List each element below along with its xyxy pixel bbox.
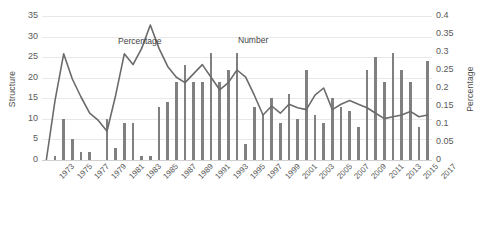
annotation-percentage: Percentage <box>118 36 161 46</box>
x-tick-label: 2001 <box>300 162 319 181</box>
x-tick-label: 1995 <box>248 162 267 181</box>
y-tick-right: 0.25 <box>436 65 466 74</box>
x-tick-label: 1991 <box>214 162 233 181</box>
x-axis-baseline <box>42 160 432 161</box>
y-tick-left: 30 <box>12 32 38 41</box>
y-tick-right: 0.35 <box>436 29 466 38</box>
x-tick-label: 1997 <box>266 162 285 181</box>
y-axis-right-ticks: 00.050.10.150.20.250.30.350.4 <box>436 0 466 226</box>
y-tick-left: 20 <box>12 73 38 82</box>
y-axis-right-title: Percentage <box>465 59 475 119</box>
x-tick-label: 1973 <box>58 162 77 181</box>
y-tick-right: 0.2 <box>436 83 466 92</box>
line-series-percentage <box>42 16 432 160</box>
x-tick-label: 1989 <box>196 162 215 181</box>
x-tick-label: 1999 <box>283 162 302 181</box>
x-tick-label: 2007 <box>352 162 371 181</box>
y-axis-left-ticks: 05101520253035 <box>12 0 38 226</box>
x-tick-label: 1977 <box>92 162 111 181</box>
x-tick-label: 1983 <box>144 162 163 181</box>
x-tick-label: 2003 <box>318 162 337 181</box>
annotation-number: Number <box>238 35 268 45</box>
y-tick-right: 0.15 <box>436 101 466 110</box>
x-tick-label: 1987 <box>179 162 198 181</box>
x-tick-label: 1981 <box>127 162 146 181</box>
x-tick-label: 1985 <box>162 162 181 181</box>
x-axis-ticks: 1973197519771979198119831985198719891991… <box>42 162 432 222</box>
y-tick-left: 35 <box>12 11 38 20</box>
x-tick-label: 2005 <box>335 162 354 181</box>
y-tick-right: 0.3 <box>436 47 466 56</box>
x-tick-label: 2013 <box>404 162 423 181</box>
y-tick-left: 0 <box>12 155 38 164</box>
chart-container: Structure Percentage 05101520253035 00.0… <box>0 0 482 226</box>
y-tick-left: 5 <box>12 134 38 143</box>
y-tick-right: 0.4 <box>436 11 466 20</box>
percentage-polyline <box>46 25 427 160</box>
y-tick-left: 10 <box>12 114 38 123</box>
y-tick-right: 0.05 <box>436 137 466 146</box>
x-tick-label: 2011 <box>387 162 406 181</box>
y-tick-left: 15 <box>12 93 38 102</box>
x-tick-label: 2009 <box>370 162 389 181</box>
x-tick-label: 1993 <box>231 162 250 181</box>
y-tick-right: 0.1 <box>436 119 466 128</box>
plot-area <box>42 16 432 160</box>
y-tick-left: 25 <box>12 52 38 61</box>
x-tick-label: 1975 <box>75 162 94 181</box>
x-tick-label: 1979 <box>110 162 129 181</box>
